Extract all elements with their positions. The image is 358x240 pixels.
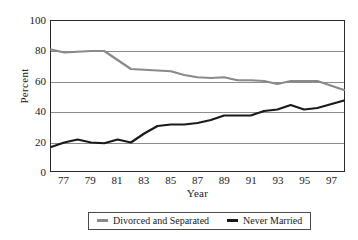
- legend-label: Never Married: [243, 215, 302, 226]
- legend-item: Never Married: [227, 215, 302, 226]
- legend-label: Divorced and Separated: [113, 215, 209, 226]
- x-tick-label: 89: [211, 174, 237, 186]
- y-tick-label: 80: [22, 45, 46, 55]
- y-tick-label: 100: [22, 15, 46, 25]
- chart-figure: Percent 100806040200 7779818385878991939…: [0, 0, 358, 240]
- x-tick-label: 97: [319, 174, 345, 186]
- y-tick-label: 0: [22, 167, 46, 177]
- series-lines: [51, 21, 344, 171]
- x-tick-label: 85: [158, 174, 184, 186]
- y-tick-label: 60: [22, 76, 46, 86]
- legend-line-icon: [97, 219, 108, 222]
- x-tick-label: 83: [131, 174, 157, 186]
- x-tick-label: 95: [292, 174, 318, 186]
- x-tick-label: 87: [185, 174, 211, 186]
- y-tick-label: 40: [22, 106, 46, 116]
- x-axis-title: Year: [50, 187, 345, 199]
- series-line: [51, 101, 344, 148]
- y-axis-tick-labels: 100806040200: [22, 0, 46, 240]
- x-tick-label: 79: [77, 174, 103, 186]
- y-tick-label: 20: [22, 137, 46, 147]
- x-tick-label: 81: [104, 174, 130, 186]
- x-tick-label: 93: [265, 174, 291, 186]
- plot-area: [50, 20, 345, 172]
- chart-legend: Divorced and SeparatedNever Married: [88, 212, 311, 230]
- x-tick-label: 91: [238, 174, 264, 186]
- legend-line-icon: [227, 219, 238, 222]
- x-tick-label: 77: [50, 174, 76, 186]
- legend-item: Divorced and Separated: [97, 215, 209, 226]
- series-line: [51, 50, 344, 91]
